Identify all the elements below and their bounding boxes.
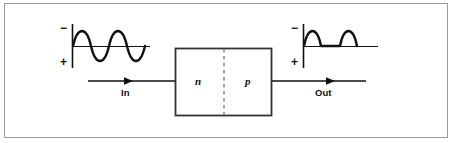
output-flow-arrow: [272, 77, 366, 85]
output-negative-sign: −: [291, 22, 298, 34]
input-negative-sign: −: [60, 22, 67, 34]
input-flow-label: In: [121, 88, 129, 98]
input-waveform-group: [73, 24, 151, 68]
output-positive-sign: +: [291, 56, 298, 68]
output-arrowhead-icon: [326, 77, 335, 85]
input-flow-arrow: [88, 77, 175, 85]
n-region-label: n: [195, 76, 201, 87]
p-region-label: p: [245, 76, 251, 87]
output-waveform-group: [304, 24, 379, 68]
input-arrowhead-icon: [124, 77, 133, 85]
figure-root: − + − + n p In Out: [0, 0, 453, 143]
pn-junction-block: [176, 49, 272, 116]
diagram-canvas: [0, 0, 453, 143]
output-rectified-curve: [304, 31, 357, 46]
output-flow-label: Out: [315, 88, 331, 98]
input-positive-sign: +: [60, 56, 67, 68]
